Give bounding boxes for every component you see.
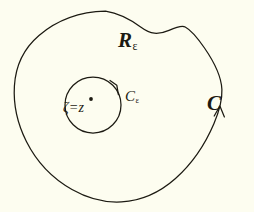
point-label-z: z <box>79 100 84 115</box>
outer-contour-label-base: C <box>207 91 221 115</box>
inner-contour-label-base: C <box>125 88 135 104</box>
point-marker-dot <box>89 97 93 101</box>
inner-contour-label-C-epsilon: Cε <box>125 89 139 105</box>
point-label-zeta: ζ <box>63 100 69 115</box>
region-label-R-epsilon: Rε <box>118 30 137 52</box>
contour-diagram-figure: Rε Cε C ζ=z <box>0 0 254 212</box>
region-label-subscript: ε <box>133 40 138 53</box>
inner-contour-label-subscript: ε <box>136 96 140 105</box>
point-label-equals: = <box>70 100 78 115</box>
region-label-base: R <box>118 28 132 52</box>
point-label-zeta-equals-z: ζ=z <box>63 101 84 115</box>
outer-contour-label-C: C <box>207 93 221 114</box>
